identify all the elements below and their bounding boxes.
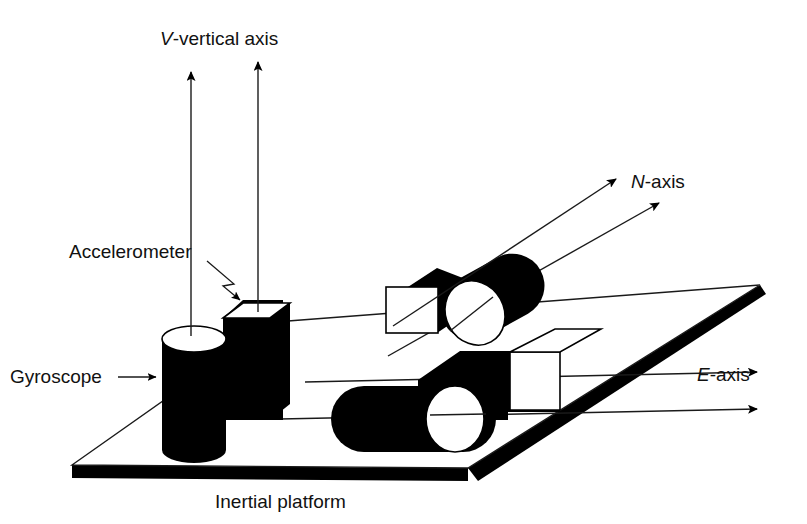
label-north-axis-symbol: N bbox=[631, 171, 645, 192]
label-vertical-axis-rest: -vertical axis bbox=[173, 28, 279, 49]
gyro-vertical-top-face bbox=[162, 326, 226, 352]
gyro-east-end-face bbox=[426, 386, 484, 452]
label-inertial-platform: Inertial platform bbox=[215, 491, 346, 512]
gyro-vertical-bottom-cap bbox=[162, 437, 226, 463]
label-accelerometer: Accelerometer bbox=[69, 241, 192, 262]
gyroscope-vertical-cylinder-body bbox=[162, 338, 226, 450]
label-gyroscope: Gyroscope bbox=[10, 366, 102, 387]
label-north-axis-rest: -axis bbox=[645, 171, 685, 192]
accelerometer-leader-arrow bbox=[207, 261, 240, 300]
label-east-axis: E-axis bbox=[697, 364, 750, 385]
accelerometer-vertical-cube-right-face bbox=[270, 303, 290, 420]
label-north-axis: N-axis bbox=[631, 171, 685, 192]
inertial-platform-figure: V-vertical axis N-axis E-axis Accelerome… bbox=[0, 0, 807, 524]
vertical-axis-group bbox=[191, 62, 258, 336]
east-axis-line-through-face bbox=[430, 414, 486, 415]
label-vertical-axis: V-vertical axis bbox=[160, 28, 278, 49]
accelerometer-vertical-cube-front-face bbox=[223, 318, 270, 420]
label-east-axis-rest: -axis bbox=[710, 364, 750, 385]
diagram-canvas: V-vertical axis N-axis E-axis Accelerome… bbox=[0, 0, 807, 524]
accelerometer-east-cube-front-face bbox=[510, 352, 560, 410]
label-east-axis-symbol: E bbox=[697, 364, 710, 385]
